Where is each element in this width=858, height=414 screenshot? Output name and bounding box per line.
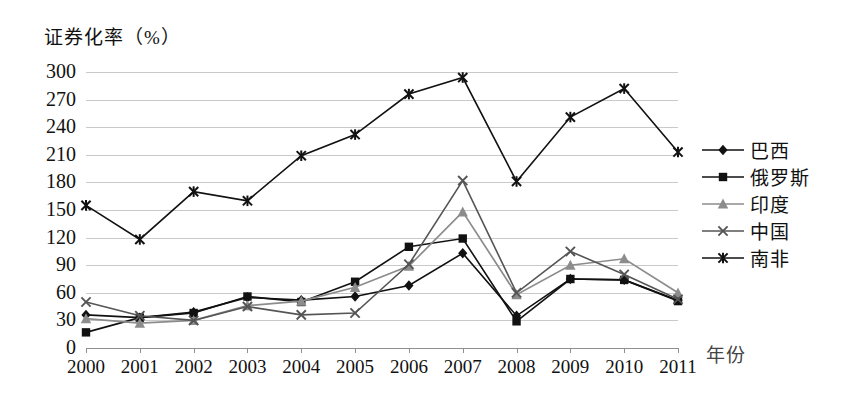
legend-item[interactable]: 巴西 <box>700 136 850 163</box>
x-axis-tick-mark <box>194 348 195 353</box>
data-point-star <box>404 89 413 100</box>
legend-marker-square-icon <box>700 167 746 187</box>
x-axis-tick-labels: 2000200120022003200420052006200720082009… <box>86 356 678 386</box>
legend-item[interactable]: 俄罗斯 <box>700 163 850 190</box>
y-axis-tick-label: 210 <box>18 144 76 164</box>
data-point-star <box>566 112 575 123</box>
x-axis-tick-label: 2002 <box>164 356 224 378</box>
legend-item-label: 印度 <box>746 190 790 217</box>
series-line <box>86 181 678 321</box>
x-axis-tick-mark <box>678 348 679 353</box>
data-point-triangle <box>458 206 468 216</box>
legend-item-label: 中国 <box>746 217 790 244</box>
y-axis-title: 证券化率（%） <box>44 22 181 49</box>
x-axis-tick-mark <box>140 348 141 353</box>
y-axis-tick-labels: 3002702402101801501209060300 <box>10 72 76 348</box>
x-axis-tick-label: 2001 <box>110 356 170 378</box>
data-point-square <box>243 292 251 300</box>
x-axis-title: 年份 <box>706 340 746 367</box>
legend-marker-triangle-icon <box>700 194 746 214</box>
data-point-square <box>82 328 90 336</box>
data-point-diamond <box>350 291 359 301</box>
data-point-square <box>719 172 727 180</box>
legend: 巴西俄罗斯印度中国南非 <box>700 136 850 271</box>
legend-marker-star-icon <box>700 248 746 268</box>
data-point-star <box>620 83 629 94</box>
data-point-star <box>673 147 682 158</box>
y-axis-tick-label: 150 <box>18 199 76 219</box>
legend-item[interactable]: 中国 <box>700 217 850 244</box>
series-layer <box>86 72 678 348</box>
y-axis-tick-label: 300 <box>18 61 76 81</box>
y-axis-tick-label: 240 <box>18 116 76 136</box>
y-axis-tick-label: 180 <box>18 171 76 191</box>
x-axis-tick-marks <box>86 348 678 354</box>
x-axis-tick-label: 2011 <box>648 356 708 378</box>
x-axis-tick-label: 2004 <box>271 356 331 378</box>
legend-item[interactable]: 南非 <box>700 244 850 271</box>
x-axis-tick-mark <box>624 348 625 353</box>
data-point-star <box>350 129 359 140</box>
x-axis-tick-label: 2010 <box>594 356 654 378</box>
series-triangle <box>81 206 683 327</box>
x-axis-tick-mark <box>570 348 571 353</box>
x-axis-tick-mark <box>86 348 87 353</box>
x-axis-tick-mark <box>355 348 356 353</box>
x-axis-tick-mark <box>301 348 302 353</box>
y-axis-tick-label: 0 <box>18 337 76 357</box>
legend-item-label: 巴西 <box>746 136 790 163</box>
plot-area <box>86 72 678 348</box>
y-axis-tick-label: 60 <box>18 282 76 302</box>
data-point-square <box>566 275 574 283</box>
legend-marker-cross-icon <box>700 221 746 241</box>
data-point-square <box>459 234 467 242</box>
x-axis-tick-mark <box>247 348 248 353</box>
x-axis-tick-label: 2008 <box>487 356 547 378</box>
series-star <box>81 72 682 245</box>
data-point-star <box>512 176 521 187</box>
y-axis-tick-label: 270 <box>18 89 76 109</box>
legend-item-label: 南非 <box>746 244 790 271</box>
data-point-cross <box>458 176 467 185</box>
data-point-star <box>458 72 467 83</box>
data-point-diamond <box>718 144 727 154</box>
data-point-star <box>81 200 90 211</box>
x-axis-tick-mark <box>409 348 410 353</box>
data-point-cross <box>566 247 575 256</box>
legend-marker-diamond-icon <box>700 140 746 160</box>
legend-item-label: 俄罗斯 <box>746 163 810 190</box>
x-axis-tick-label: 2006 <box>379 356 439 378</box>
x-axis-tick-label: 2005 <box>325 356 385 378</box>
data-point-diamond <box>404 280 413 290</box>
y-axis-tick-label: 90 <box>18 254 76 274</box>
series-line <box>86 212 678 323</box>
x-axis-tick-mark <box>463 348 464 353</box>
data-point-star <box>297 150 306 161</box>
securitization-rate-line-chart: 证券化率（%） 3002702402101801501209060300 200… <box>0 0 858 414</box>
x-axis-tick-label: 2009 <box>540 356 600 378</box>
series-line <box>86 78 678 240</box>
y-axis-tick-label: 120 <box>18 227 76 247</box>
y-axis-tick-label: 30 <box>18 309 76 329</box>
x-axis-tick-label: 2003 <box>217 356 277 378</box>
legend-item[interactable]: 印度 <box>700 190 850 217</box>
data-point-square <box>405 243 413 251</box>
series-diamond <box>81 248 682 323</box>
x-axis-tick-mark <box>517 348 518 353</box>
data-point-star <box>135 234 144 245</box>
data-point-square <box>512 317 520 325</box>
x-axis-tick-label: 2007 <box>433 356 493 378</box>
x-axis-tick-label: 2000 <box>56 356 116 378</box>
series-cross <box>81 176 682 325</box>
